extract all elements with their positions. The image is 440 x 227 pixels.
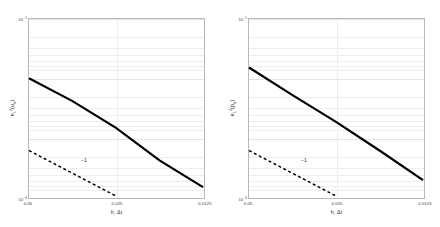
xtick-left: 0.05 (24, 201, 33, 206)
y-axis-arg-open: (p (229, 104, 235, 109)
panel-left: 10−1 10−4 −1 0.05 0.025 0.0125 h, Δt eL2… (0, 0, 220, 227)
y-axis-title-left: eL2(uh) (9, 100, 18, 116)
x-axis-title-left: h, Δt (28, 209, 205, 215)
y-axis-symbol: e (229, 113, 235, 116)
y-axis-arg-close: ) (229, 100, 235, 102)
xtick-mid: 0.025 (332, 201, 343, 206)
xtick-left: 0.05 (244, 201, 253, 206)
convergence-figure: 10−1 10−4 −1 0.05 0.025 0.0125 h, Δt eL2… (0, 0, 440, 227)
y-axis-superscript: 2 (9, 109, 13, 111)
panel-right: 10−1 10−4 −1 0.05 0.025 0.0125 h, Δt eL2… (220, 0, 440, 227)
reference-slope-line (29, 151, 116, 196)
reference-slope-line (249, 151, 336, 196)
x-axis-title-right: h, Δt (248, 209, 425, 215)
y-axis-subscript: L (233, 111, 237, 113)
y-axis-arg-close: ) (9, 100, 15, 102)
xtick-right: 0.0125 (418, 201, 431, 206)
y-axis-title-right: eL2(ph) (229, 100, 238, 116)
slope-annotation-left: −1 (81, 157, 87, 163)
y-axis-arg-open: (u (9, 104, 15, 109)
curves-right (249, 19, 424, 198)
ytick-top: 10−1 (18, 16, 27, 22)
plot-area-left: 10−1 10−4 −1 (28, 18, 205, 199)
xtick-right: 0.0125 (198, 201, 211, 206)
plot-area-right: 10−1 10−4 −1 (248, 18, 425, 199)
ytick-top-exponent: −1 (243, 16, 247, 20)
curves-left (29, 19, 204, 198)
y-axis-symbol: e (9, 113, 15, 116)
ytick-bottom-exponent: −4 (243, 196, 247, 200)
error-curve (249, 67, 423, 180)
ytick-bottom-exponent: −4 (23, 196, 27, 200)
xtick-mid: 0.025 (112, 201, 123, 206)
slope-annotation-right: −1 (301, 157, 307, 163)
ytick-top: 10−1 (238, 16, 247, 22)
y-axis-subscript: L (13, 111, 17, 113)
y-axis-superscript: 2 (229, 109, 233, 111)
error-curve (29, 78, 203, 187)
ytick-top-exponent: −1 (23, 16, 27, 20)
